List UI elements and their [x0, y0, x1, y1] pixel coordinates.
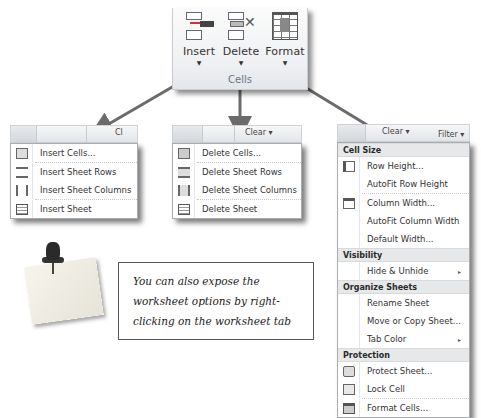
chevron-down-icon: ▼	[219, 59, 263, 66]
insert-sheet-icon	[16, 204, 28, 215]
format-cells-icon	[343, 403, 355, 414]
menu-item-delete-sheet[interactable]: Delete Sheet	[173, 200, 301, 218]
delete-button[interactable]: ✕ Delete ▼	[219, 10, 263, 72]
submenu-arrow-icon: ▸	[458, 336, 461, 343]
insert-menu: Insert Cells... Insert Sheet Rows Insert…	[10, 143, 138, 219]
menu-item-delete-cells[interactable]: Delete Cells...	[173, 144, 301, 162]
chevron-down-icon: ▼	[177, 59, 221, 66]
delete-sheet-icon	[178, 204, 190, 215]
section-header-visibility: Visibility	[338, 248, 469, 262]
menu-item-row-height[interactable]: Row Height...	[338, 157, 469, 175]
menu-item-move-copy-sheet[interactable]: Move or Copy Sheet...	[338, 312, 469, 330]
menu-item-insert-cells[interactable]: Insert Cells...	[11, 144, 137, 162]
note-text: You can also expose the worksheet option…	[133, 271, 313, 331]
delete-cells-icon: ✕	[226, 12, 256, 40]
format-menu-ribbon-strip: Clear ▾ Filter ▾	[337, 124, 470, 142]
chevron-down-icon: ▼	[263, 59, 307, 66]
ribbon-cells-group: Insert ▼ ✕ Delete ▼ Format ▼ Cells	[172, 8, 308, 90]
pushpin-icon	[46, 242, 60, 260]
menu-item-hide-unhide[interactable]: Hide & Unhide ▸	[338, 262, 469, 280]
menu-item-autofit-column-width[interactable]: AutoFit Column Width	[338, 212, 469, 230]
clear-label: Cl	[115, 128, 123, 137]
insert-button[interactable]: Insert ▼	[177, 10, 221, 72]
filter-label: Filter ▾	[438, 130, 464, 139]
delete-menu-ribbon-strip: Clear ▾	[172, 125, 302, 143]
delete-menu: Delete Cells... Delete Sheet Rows Delete…	[172, 143, 302, 219]
menu-item-column-width[interactable]: Column Width...	[338, 194, 469, 212]
insert-menu-ribbon-strip: Cl	[10, 125, 138, 143]
column-width-icon	[343, 198, 355, 209]
clear-label: Clear ▾	[382, 127, 409, 136]
menu-item-insert-sheet-rows[interactable]: Insert Sheet Rows	[11, 163, 137, 181]
menu-item-protect-sheet[interactable]: Protect Sheet...	[338, 362, 469, 380]
menu-item-format-cells[interactable]: Format Cells...	[338, 399, 469, 417]
section-header-cell-size: Cell Size	[338, 143, 469, 157]
insert-cells-icon	[16, 148, 28, 159]
format-label: Format	[263, 45, 307, 58]
delete-label: Delete	[219, 45, 263, 58]
section-header-organize-sheets: Organize Sheets	[338, 280, 469, 294]
menu-item-lock-cell[interactable]: Lock Cell	[338, 380, 469, 398]
insert-label: Insert	[177, 45, 221, 58]
insert-cells-icon	[184, 12, 214, 40]
sticky-note-icon	[24, 257, 103, 324]
lock-cell-icon	[343, 384, 355, 395]
note-callout: You can also expose the worksheet option…	[118, 262, 314, 340]
menu-item-delete-sheet-columns[interactable]: Delete Sheet Columns	[173, 181, 301, 199]
delete-columns-icon	[178, 185, 190, 196]
menu-item-insert-sheet-columns[interactable]: Insert Sheet Columns	[11, 181, 137, 199]
insert-rows-icon	[16, 167, 28, 178]
delete-cells-icon	[178, 148, 190, 159]
format-button[interactable]: Format ▼	[263, 10, 307, 72]
format-cells-icon	[270, 12, 300, 40]
menu-item-insert-sheet[interactable]: Insert Sheet	[11, 200, 137, 218]
menu-item-default-width[interactable]: Default Width...	[338, 230, 469, 248]
delete-rows-icon	[178, 167, 190, 178]
protect-sheet-icon	[343, 366, 355, 377]
row-height-icon	[343, 161, 355, 172]
menu-item-rename-sheet[interactable]: Rename Sheet	[338, 294, 469, 312]
cells-group-label: Cells	[173, 74, 307, 85]
insert-columns-icon	[16, 185, 28, 196]
section-header-protection: Protection	[338, 348, 469, 362]
menu-item-autofit-row-height[interactable]: AutoFit Row Height	[338, 175, 469, 193]
menu-item-delete-sheet-rows[interactable]: Delete Sheet Rows	[173, 163, 301, 181]
pushpin-icon	[52, 262, 54, 274]
clear-label: Clear ▾	[245, 128, 272, 137]
menu-item-tab-color[interactable]: Tab Color ▸	[338, 330, 469, 348]
submenu-arrow-icon: ▸	[458, 268, 461, 275]
format-menu: Cell Size Row Height... AutoFit Row Heig…	[337, 142, 470, 418]
